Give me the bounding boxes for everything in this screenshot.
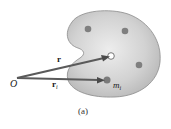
vector-r-label: r <box>57 55 61 64</box>
center-of-mass-marker <box>108 53 115 60</box>
mass-label-subscript: i <box>120 85 122 91</box>
mass-mi-dot <box>104 77 111 84</box>
origin-label: O <box>10 79 17 89</box>
mass-label: mi <box>113 81 121 90</box>
particle-dot <box>122 28 129 35</box>
figure-caption: (a) <box>78 107 88 116</box>
vector-ri-subscript: i <box>56 84 58 90</box>
rigid-body-diagram: O r ri mi (a) <box>0 0 171 129</box>
vector-ri-label: ri <box>52 80 58 89</box>
mass-label-main: m <box>113 80 120 90</box>
particle-dot <box>136 62 143 69</box>
particle-dot <box>85 26 92 33</box>
